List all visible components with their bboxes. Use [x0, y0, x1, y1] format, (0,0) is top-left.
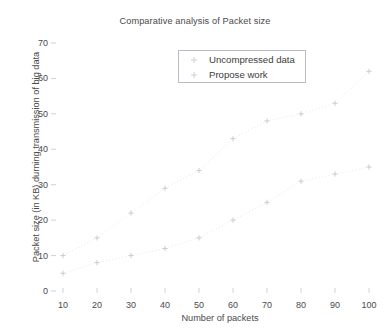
data-point [332, 101, 337, 106]
data-point [332, 171, 337, 176]
data-point [298, 179, 303, 184]
data-points-propose-work [60, 164, 371, 275]
chart-legend: Uncompressed data Propose work [178, 50, 306, 83]
data-point [196, 235, 201, 240]
data-point [264, 200, 269, 205]
data-point [298, 111, 303, 116]
legend-label-uncompressed-data: Uncompressed data [209, 54, 295, 65]
legend-label-propose-work: Propose work [209, 69, 268, 80]
legend-marker-plus-icon-2 [179, 68, 209, 82]
data-point [60, 253, 65, 258]
legend-item-propose-work: Propose work [179, 67, 307, 82]
data-point [128, 253, 133, 258]
data-point [230, 218, 235, 223]
data-point [366, 164, 371, 169]
data-point [264, 118, 269, 123]
legend-item-uncompressed-data: Uncompressed data [179, 52, 307, 67]
data-point [162, 246, 167, 251]
legend-marker-plus-icon [179, 53, 209, 67]
data-point [128, 210, 133, 215]
trend-lines [63, 71, 369, 273]
chart-figure: Comparative analysis of Packet size Pack… [0, 0, 390, 334]
data-point [94, 260, 99, 265]
data-points-uncompressed-data [60, 69, 371, 258]
data-point [60, 271, 65, 276]
data-point [366, 69, 371, 74]
